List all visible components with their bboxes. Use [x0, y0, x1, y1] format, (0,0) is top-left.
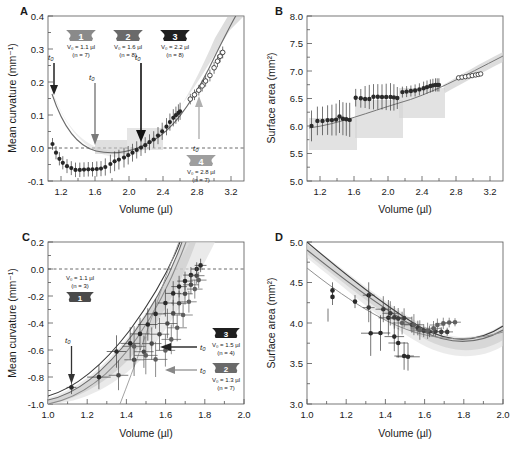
band-b-2: [355, 100, 403, 138]
y-tick-b-4: 7.0: [290, 66, 303, 77]
y-axis-title-c: Mean curvature (mm⁻¹): [6, 268, 18, 377]
t0-label-a-4: t₀: [193, 144, 199, 153]
legend-v0-c-2: V₀ = 1.3 µl: [212, 377, 240, 383]
legend-v0-a-3: V₀ = 2.2 µl: [161, 44, 189, 50]
x-tick-c-3: 1.6: [159, 409, 172, 420]
t0-label-a-2: t₀: [89, 73, 95, 82]
legend-v0-a-1: V₀ = 1.1 µl: [67, 44, 95, 50]
legend-n-a-4: (n = 7): [192, 177, 210, 183]
panel-letter-c: C: [22, 231, 30, 243]
y-tick-c-6: 0.2: [31, 237, 44, 248]
y-tick-a-4: 0.3: [31, 44, 44, 55]
figure-root: A 0.4 0.3 0.2 0.1 0.0 -0.1: [0, 0, 518, 455]
y-tick-b-5: 7.5: [290, 38, 303, 49]
x-tick-d-3: 1.6: [418, 409, 431, 420]
y-tick-a-1: 0.0: [31, 143, 44, 154]
panel-d: D 5.0 4.5 4.0 3.5 3.0: [259, 228, 518, 455]
x-tick-a-5: 3.2: [224, 186, 237, 197]
legend-n-a-3: (n = 8): [166, 52, 184, 58]
legend-n-a-2: (n = 8): [119, 52, 137, 58]
y-tick-d-0: 3.0: [290, 399, 303, 410]
y-tick-c-2: -0.6: [28, 345, 44, 356]
x-tick-a-4: 2.8: [190, 186, 203, 197]
x-tick-c-1: 1.2: [81, 409, 94, 420]
y-tick-d-2: 4.0: [290, 318, 303, 329]
y-tick-a-2: 0.1: [31, 110, 44, 121]
panel-a: A 0.4 0.3 0.2 0.1 0.0 -0.1: [0, 0, 259, 228]
x-tick-b-2: 2.0: [381, 186, 394, 197]
y-tick-b-3: 6.5: [290, 93, 303, 104]
panel-c-plot: C 0.2 0.0 -0.2 -0.4 -0.6: [0, 228, 259, 455]
legend-number-c-1: 1: [78, 294, 83, 303]
panel-d-plot: D 5.0 4.5 4.0 3.5 3.0: [259, 228, 518, 455]
panel-b: B 8.0 7.5 7.0 6.5 6.0 5.: [259, 0, 518, 228]
x-tick-a-1: 1.6: [88, 186, 101, 197]
y-tick-b-0: 5.0: [290, 176, 303, 187]
legend-n-c-3: (n = 4): [217, 350, 235, 356]
x-tick-c-5: 2.0: [237, 409, 250, 420]
t0-label-c-3: t₀: [200, 366, 206, 375]
y-tick-b-1: 5.5: [290, 148, 303, 159]
x-axis-title-a: Volume (µl): [119, 203, 172, 215]
y-tick-a-0: -0.1: [28, 176, 44, 187]
t0-label-a-1: t₀: [48, 53, 54, 62]
x-tick-b-0: 1.2: [313, 186, 326, 197]
legend-number-a-2: 2: [125, 32, 130, 42]
x-tick-d-4: 1.8: [457, 409, 470, 420]
x-tick-d-0: 1.0: [300, 409, 313, 420]
legend-number-a-1: 1: [78, 32, 83, 42]
t0-label-c-1: t₀: [65, 336, 71, 345]
y-axis-title-a: Mean curvature (mm⁻¹): [6, 43, 18, 152]
x-tick-c-4: 1.8: [198, 409, 211, 420]
y-axis-title-d: Surface area (mm²): [265, 277, 277, 368]
legend-number-c-2: 2: [224, 365, 229, 374]
legend-number-c-3: 3: [224, 330, 229, 339]
legend-number-a-3: 3: [172, 32, 177, 42]
legend-n-c-2: (n = 7): [217, 385, 235, 391]
panel-letter-d: D: [275, 231, 283, 243]
y-axis-title-b: Surface area (mm²): [265, 52, 277, 143]
legend-v0-a-2: V₀ = 1.6 µl: [114, 44, 142, 50]
panel-c: C 0.2 0.0 -0.2 -0.4 -0.6: [0, 228, 259, 455]
y-tick-c-4: -0.2: [28, 291, 44, 302]
x-axis-title-c: Volume (µl): [119, 427, 172, 439]
y-tick-b-2: 6.0: [290, 121, 303, 132]
y-tick-c-3: -0.4: [28, 318, 44, 329]
x-tick-c-2: 1.4: [120, 409, 133, 420]
y-tick-d-1: 3.5: [290, 358, 303, 369]
y-tick-d-3: 4.5: [290, 277, 303, 288]
x-tick-c-0: 1.0: [41, 409, 54, 420]
x-axis-title-b: Volume (µl): [378, 203, 431, 215]
panel-letter-b: B: [275, 5, 283, 17]
panel-a-plot: A 0.4 0.3 0.2 0.1 0.0 -0.1: [0, 0, 259, 228]
x-tick-a-3: 2.4: [156, 186, 169, 197]
x-tick-b-1: 1.6: [347, 186, 360, 197]
legend-number-a-4: 4: [198, 157, 203, 167]
panel-letter-a: A: [20, 5, 28, 17]
legend-n-c-1: (n = 3): [71, 283, 89, 289]
x-tick-d-1: 1.2: [340, 409, 353, 420]
x-tick-a-2: 2.0: [122, 186, 135, 197]
y-tick-d-4: 5.0: [290, 237, 303, 248]
y-tick-c-1: -0.8: [28, 372, 44, 383]
y-tick-c-0: -1.0: [28, 399, 44, 410]
y-tick-a-3: 0.2: [31, 77, 44, 88]
y-tick-b-6: 8.0: [290, 11, 303, 22]
x-tick-b-4: 2.8: [449, 186, 462, 197]
x-tick-d-2: 1.4: [379, 409, 392, 420]
x-tick-b-3: 2.4: [415, 186, 428, 197]
x-tick-d-5: 2.0: [496, 409, 509, 420]
legend-n-a-1: (n = 7): [72, 52, 90, 58]
x-tick-a-0: 1.2: [54, 186, 67, 197]
legend-v0-c-1: V₀ = 1.1 µl: [66, 275, 94, 281]
x-tick-b-5: 3.2: [483, 186, 496, 197]
y-tick-c-5: 0.0: [31, 264, 44, 275]
legend-v0-a-4: V₀ = 2.8 µl: [187, 169, 215, 175]
x-axis-title-d: Volume (µl): [378, 427, 431, 439]
t0-label-c-2: t₀: [200, 343, 206, 352]
panel-b-plot: B 8.0 7.5 7.0 6.5 6.0 5.: [259, 0, 518, 228]
legend-v0-c-3: V₀ = 1.5 µl: [212, 342, 240, 348]
y-tick-a-5: 0.4: [31, 11, 44, 22]
